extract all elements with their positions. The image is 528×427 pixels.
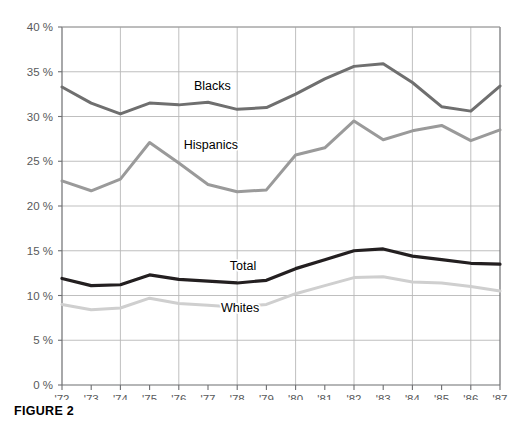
x-tick-label: '87 (493, 393, 508, 400)
line-chart-svg: 0 %5 %10 %15 %20 %25 %30 %35 %40 % '72'7… (0, 0, 528, 400)
x-tick-label: '77 (201, 393, 216, 400)
x-tick-label: '86 (463, 393, 478, 400)
series-label-total: Total (230, 259, 256, 273)
y-tick-label: 30 % (27, 111, 53, 123)
y-tick-label: 15 % (27, 245, 53, 257)
x-tick-label: '76 (171, 393, 186, 400)
x-tick-label: '74 (113, 393, 129, 400)
chart-plot-area: 0 %5 %10 %15 %20 %25 %30 %35 %40 % '72'7… (0, 0, 528, 400)
x-tick-label: '81 (317, 393, 332, 400)
y-tick-label: 35 % (27, 66, 53, 78)
x-tick-label: '78 (230, 393, 245, 400)
data-series-lines (62, 64, 500, 310)
series-label-blacks: Blacks (194, 79, 231, 93)
series-label-whites: Whites (221, 301, 259, 315)
x-tick-label: '84 (405, 393, 421, 400)
x-tick-label: '73 (84, 393, 99, 400)
y-tick-label: 0 % (33, 379, 53, 391)
x-tick-label: '82 (347, 393, 362, 400)
x-axis-tick-labels: '72'73'74'75'76'77'78'79'80'81'82'83'84'… (55, 393, 508, 400)
y-tick-label: 5 % (33, 334, 53, 346)
horizontal-gridlines (62, 27, 500, 340)
x-tick-label: '75 (142, 393, 157, 400)
y-tick-label: 40 % (27, 21, 53, 33)
x-tick-label: '80 (288, 393, 303, 400)
x-axis-tick-marks (62, 385, 500, 390)
x-tick-label: '85 (434, 393, 449, 400)
figure-container: 0 %5 %10 %15 %20 %25 %30 %35 %40 % '72'7… (0, 0, 528, 427)
x-tick-label: '72 (55, 393, 70, 400)
series-label-hispanics: Hispanics (184, 138, 238, 152)
figure-caption: FIGURE 2 (14, 404, 74, 418)
y-tick-label: 25 % (27, 155, 53, 167)
series-line-total (62, 249, 500, 286)
y-tick-label: 10 % (27, 290, 53, 302)
series-line-blacks (62, 64, 500, 114)
y-tick-label: 20 % (27, 200, 53, 212)
grid-layer (62, 27, 500, 385)
y-axis-tick-labels: 0 %5 %10 %15 %20 %25 %30 %35 %40 % (27, 21, 53, 391)
series-line-hispanics (62, 121, 500, 192)
x-tick-label: '83 (376, 393, 391, 400)
x-tick-label: '79 (259, 393, 274, 400)
